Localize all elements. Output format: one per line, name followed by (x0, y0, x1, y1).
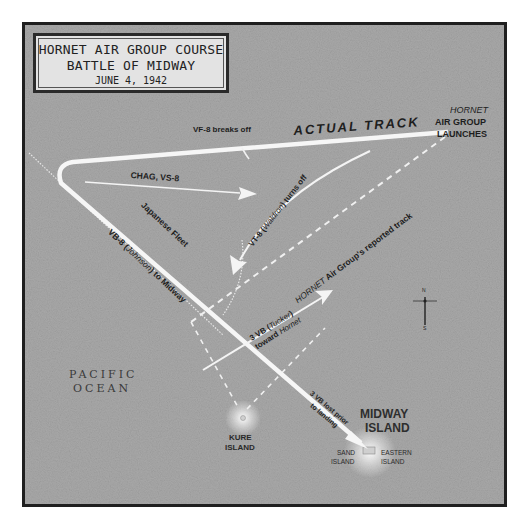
map-title-box: HORNET AIR GROUP COURSE BATTLE OF MIDWAY… (33, 33, 229, 93)
label-launches: LAUNCHES (437, 129, 487, 139)
label-sand: SAND (337, 449, 355, 456)
title-line-1: HORNET AIR GROUP COURSE (36, 42, 226, 58)
label-hornet: HORNET (450, 105, 488, 115)
label-midway-island: ISLAND (365, 421, 410, 435)
ocean-background (25, 25, 504, 504)
kure-atoll (241, 416, 246, 421)
label-midway: MIDWAY (360, 407, 408, 421)
compass-s-label: S (423, 325, 426, 331)
compass-n-label: N (422, 287, 426, 293)
label-sand-island: ISLAND (331, 458, 354, 465)
label-eastern-island: ISLAND (381, 458, 404, 465)
map-frame: HORNET AIR GROUP COURSE BATTLE OF MIDWAY… (22, 22, 507, 507)
title-date: JUNE 4, 1942 (36, 74, 226, 88)
label-pacific: PACIFIC (69, 368, 138, 381)
label-kure-island: ISLAND (225, 443, 255, 452)
label-air-group: AIR GROUP (435, 117, 486, 127)
map-canvas (25, 25, 504, 504)
label-kure: KURE (229, 433, 252, 442)
title-line-2: BATTLE OF MIDWAY (36, 58, 226, 74)
midway-atoll (363, 447, 375, 454)
label-ocean: OCEAN (73, 382, 131, 395)
label-vf8-breaks-off: VF-8 breaks off (193, 125, 251, 134)
label-eastern: EASTERN (381, 449, 412, 456)
